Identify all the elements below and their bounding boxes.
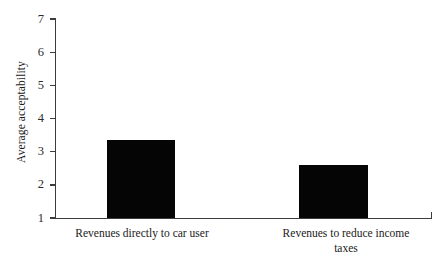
y-tick-mark-1 bbox=[50, 217, 56, 218]
y-tick-mark-5 bbox=[50, 85, 56, 86]
y-tick-label-5: 5 bbox=[4, 79, 44, 92]
x-axis-line bbox=[55, 218, 432, 219]
x-axis-end-tick bbox=[431, 212, 432, 219]
y-tick-mark-6 bbox=[50, 52, 56, 53]
y-tick-label-1: 1 bbox=[4, 212, 44, 225]
y-tick-mark-3 bbox=[50, 151, 56, 152]
y-tick-mark-7 bbox=[50, 18, 56, 19]
bar-revenues-directly-to-car-user bbox=[107, 140, 175, 218]
y-tick-mark-4 bbox=[50, 118, 56, 119]
y-tick-label-7: 7 bbox=[4, 13, 44, 26]
bar-revenues-to-reduce-income-taxes bbox=[299, 165, 368, 218]
x-category-label-2-line1: Revenues to reduce income bbox=[283, 227, 410, 239]
bar-chart: Average acceptability 7 6 5 4 3 2 1 Reve… bbox=[0, 0, 445, 266]
y-tick-label-3: 3 bbox=[4, 145, 44, 158]
x-category-label-2: Revenues to reduce income taxes bbox=[248, 226, 444, 256]
y-tick-label-4: 4 bbox=[4, 112, 44, 125]
x-category-label-1-line1: Revenues directly to car user bbox=[75, 227, 208, 239]
y-tick-label-2: 2 bbox=[4, 178, 44, 191]
y-tick-label-6: 6 bbox=[4, 46, 44, 59]
x-category-label-1: Revenues directly to car user bbox=[52, 226, 232, 241]
x-category-label-2-line2: taxes bbox=[334, 242, 358, 254]
y-tick-mark-2 bbox=[50, 184, 56, 185]
